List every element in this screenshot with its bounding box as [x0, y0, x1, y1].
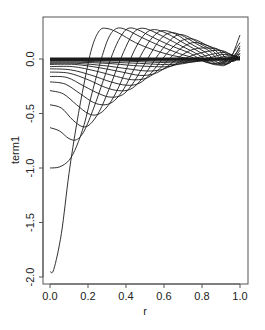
x-tick-label: 0.6	[156, 290, 171, 302]
x-tick-label: 1.0	[232, 290, 247, 302]
x-tick-label: 0.2	[80, 290, 95, 302]
y-tick-label: -1.5	[24, 213, 36, 232]
x-tick-label: 0.0	[42, 290, 57, 302]
plot-background	[0, 0, 265, 330]
y-tick-label: -1.0	[24, 159, 36, 178]
x-tick-label: 0.8	[194, 290, 209, 302]
x-tick-label: 0.4	[118, 290, 133, 302]
y-tick-label: -0.5	[24, 104, 36, 123]
chart: 0.00.20.40.60.81.0 0.0-0.5-1.0-1.5-2.0 r…	[0, 0, 265, 330]
y-tick-label: 0.0	[24, 51, 36, 66]
y-axis-title: term1	[9, 136, 21, 164]
x-axis-title: r	[143, 305, 147, 317]
y-tick-label: -2.0	[24, 268, 36, 287]
